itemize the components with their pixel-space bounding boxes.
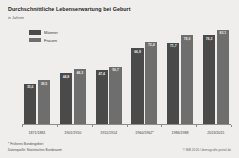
x-axis-label: 1986/1988 [167,131,193,135]
bar-value-label: 48,3 [76,71,83,75]
x-axis-label: 2013/2015 [203,131,229,135]
x-axis-labels: 1871/18811901/19101911/19141960/1962*198… [22,131,231,135]
bar-maenner[interactable]: 78,2 [203,24,215,124]
bar-frauen[interactable]: 38,5 [38,24,50,124]
x-axis-label: 1901/1910 [60,131,86,135]
chart-credit: © BiB 2016 / demografie-portal.de [183,148,231,152]
bar-rect: 38,5 [38,80,50,124]
bar-maenner[interactable]: 44,8 [60,24,72,124]
bar-rect: 83,1 [217,30,229,125]
bar-maenner[interactable]: 47,4 [96,24,108,124]
bar-maenner[interactable]: 71,7 [167,24,179,124]
chart-subtitle: in Jahren [8,15,24,20]
bar-rect: 71,7 [167,43,179,125]
bar-maenner[interactable]: 35,6 [24,24,36,124]
bar-groups: 35,638,544,848,347,450,766,972,471,778,0… [22,24,231,124]
bar-value-label: 44,8 [63,75,70,79]
axis-tick [92,125,93,127]
bar-group: 47,450,7 [96,24,122,124]
bar-value-label: 35,6 [27,85,34,89]
bar-frauen[interactable]: 50,7 [109,24,121,124]
bar-rect: 50,7 [109,67,121,125]
bar-group: 78,283,1 [203,24,229,124]
x-axis-label: 1911/1914 [96,131,122,135]
bar-maenner[interactable]: 66,9 [131,24,143,124]
bar-group: 44,848,3 [60,24,86,124]
bar-frauen[interactable]: 78,0 [181,24,193,124]
axis-tick [57,125,58,127]
bar-rect: 72,4 [145,42,157,125]
x-axis-label: 1871/1881 [24,131,50,135]
plot-area: 35,638,544,848,347,450,766,972,471,778,0… [22,24,231,125]
bar-value-label: 50,7 [112,68,119,72]
bar-value-label: 38,5 [41,82,48,86]
bar-frauen[interactable]: 48,3 [74,24,86,124]
bar-rect: 48,3 [74,69,86,124]
bar-rect: 78,0 [181,35,193,124]
bar-rect: 44,8 [60,73,72,124]
axis-tick [161,125,162,127]
bar-value-label: 78,2 [206,37,213,41]
bar-rect: 47,4 [96,70,108,124]
page-title: Durchschnittliche Lebenserwartung bei Ge… [8,6,131,12]
bar-value-label: 47,4 [98,72,105,76]
axis-tick [196,125,197,127]
bar-group: 66,972,4 [131,24,157,124]
bar-value-label: 71,7 [170,44,177,48]
x-axis-label: 1960/1962* [131,131,157,135]
bar-value-label: 72,4 [148,43,155,47]
axis-tick [231,125,232,127]
bar-rect: 78,2 [203,35,215,124]
chart-page: Durchschnittliche Lebenserwartung bei Ge… [0,0,239,158]
bar-rect: 35,6 [24,84,36,125]
bar-value-label: 66,9 [134,50,141,54]
bar-value-label: 83,1 [219,31,226,35]
chart-source: Datenquelle: Statistisches Bundesamt [8,148,62,152]
axis-tick [22,125,23,127]
bar-group: 35,638,5 [24,24,50,124]
bar-frauen[interactable]: 72,4 [145,24,157,124]
bar-rect: 66,9 [131,48,143,124]
bar-value-label: 78,0 [184,37,191,41]
bar-group: 71,778,0 [167,24,193,124]
chart-footnote: * Früheres Bundesgebiet [8,142,43,147]
axis-tick [127,125,128,127]
bar-frauen[interactable]: 83,1 [217,24,229,124]
